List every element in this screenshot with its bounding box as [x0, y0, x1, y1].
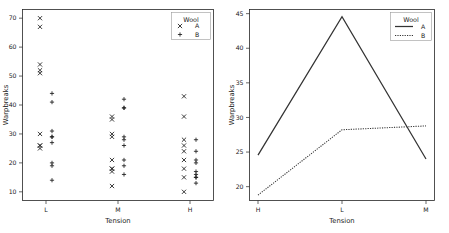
interaction-plot-panel: 202530354045 HLM Wool AB Tension Warpbre… [225, 0, 449, 233]
right-x-tick-label: L [340, 206, 344, 213]
right-x-tick-label: M [423, 206, 428, 213]
right-line-b [258, 126, 426, 195]
right-y-tick-label: 30 [236, 114, 244, 121]
strip-plot-panel: 10203040506070 LMH Wool AB Tension Warpb… [0, 0, 224, 233]
right-x-tick-label: H [256, 206, 261, 213]
right-y-tick-labels: 202530354045 [236, 10, 244, 190]
left-y-tick-label: 30 [9, 130, 17, 137]
left-y-tick-labels: 10203040506070 [9, 14, 17, 195]
marker-plus [122, 158, 126, 162]
left-y-tick-label: 10 [9, 188, 17, 195]
marker-plus [122, 143, 126, 147]
left-y-tick-label: 20 [9, 159, 17, 166]
marker-x [182, 167, 186, 171]
marker-plus [122, 164, 126, 168]
marker-x [182, 175, 186, 179]
left-x-tick-labels: LMH [44, 206, 192, 213]
right-x-tick-marks [258, 201, 426, 205]
marker-x [38, 71, 42, 75]
marker-x [182, 138, 186, 142]
right-legend[interactable]: Wool AB [391, 13, 432, 41]
marker-plus [50, 135, 54, 139]
marker-x [38, 25, 42, 29]
marker-plus [194, 181, 198, 185]
left-x-tick-label: L [44, 206, 48, 213]
marker-x [182, 143, 186, 147]
marker-x [182, 158, 186, 162]
marker-x [38, 16, 42, 20]
marker-plus [194, 172, 198, 176]
marker-x [182, 114, 186, 118]
left-legend[interactable]: Wool AB [172, 13, 211, 40]
marker-x [110, 132, 114, 136]
right-legend-title: Wool [403, 16, 419, 24]
left-x-tick-marks [46, 201, 190, 205]
marker-plus [122, 172, 126, 176]
left-y-tick-label: 40 [9, 101, 17, 108]
marker-plus [50, 141, 54, 145]
marker-plus [194, 158, 198, 162]
marker-plus [50, 161, 54, 165]
marker-plus [122, 135, 126, 139]
left-y-tick-label: 70 [9, 14, 17, 21]
marker-x [110, 167, 114, 171]
marker-x [38, 143, 42, 147]
marker-x [38, 132, 42, 136]
marker-plus [122, 97, 126, 101]
right-y-tick-label: 25 [236, 148, 244, 155]
left-y-tick-label: 60 [9, 43, 17, 50]
left-x-axis-label: Tension [104, 217, 130, 225]
marker-x [110, 184, 114, 188]
left-y-tick-marks [19, 18, 23, 192]
right-x-tick-labels: HLM [256, 206, 429, 213]
left-x-tick-label: H [188, 206, 193, 213]
marker-x [38, 62, 42, 66]
marker-x [182, 94, 186, 98]
marker-plus [50, 100, 54, 104]
right-y-tick-label: 40 [236, 44, 244, 51]
right-y-tick-label: 35 [236, 79, 244, 86]
left-y-tick-label: 50 [9, 72, 17, 79]
left-legend-label: B [195, 31, 199, 38]
marker-plus [122, 106, 126, 110]
right-x-axis-label: Tension [328, 217, 354, 225]
right-y-tick-marks [246, 14, 250, 187]
right-y-tick-label: 45 [236, 10, 244, 17]
marker-plus [50, 91, 54, 95]
right-series-lines [258, 17, 426, 195]
marker-x [182, 149, 186, 153]
figure-root: 10203040506070 LMH Wool AB Tension Warpb… [0, 0, 449, 233]
strip-plot-svg: 10203040506070 LMH Wool AB Tension Warpb… [0, 0, 224, 233]
left-y-axis-label: Warpbreaks [2, 84, 10, 125]
marker-x [110, 158, 114, 162]
interaction-plot-svg: 202530354045 HLM Wool AB Tension Warpbre… [225, 0, 449, 233]
right-legend-label: B [421, 32, 425, 39]
right-y-axis-label: Warpbreaks [228, 84, 236, 125]
right-y-tick-label: 20 [236, 183, 244, 190]
left-x-tick-label: M [115, 206, 120, 213]
marker-plus [194, 149, 198, 153]
marker-x [182, 190, 186, 194]
marker-x [110, 114, 114, 118]
marker-plus [50, 178, 54, 182]
left-data-points [38, 16, 198, 194]
marker-plus [50, 129, 54, 133]
marker-plus [194, 138, 198, 142]
